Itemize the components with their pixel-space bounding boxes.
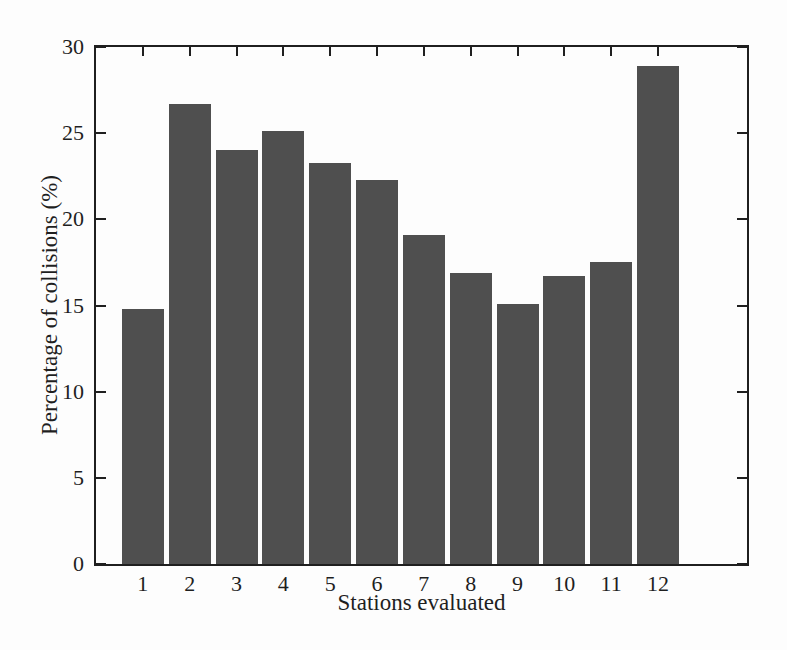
x-tick-label: 6 <box>355 572 399 596</box>
x-tick-top <box>376 47 378 56</box>
x-tick-top <box>423 47 425 56</box>
bar-station-9 <box>497 304 539 564</box>
y-tick-label: 5 <box>24 466 84 490</box>
x-tick-label: 5 <box>308 572 352 596</box>
x-tick-label: 8 <box>449 572 493 596</box>
bar-station-12 <box>637 66 679 564</box>
x-tick-top <box>142 47 144 56</box>
y-tick-left <box>96 563 106 565</box>
bar-station-6 <box>356 180 398 564</box>
y-tick-label: 15 <box>24 294 84 318</box>
x-tick-label: 12 <box>636 572 680 596</box>
y-tick-label: 30 <box>24 35 84 59</box>
y-tick-right <box>737 305 747 307</box>
x-tick-label: 3 <box>215 572 259 596</box>
x-tick-label: 4 <box>261 572 305 596</box>
bar-chart-figure: Percentage of collisions (%) Stations ev… <box>0 0 787 650</box>
y-tick-label: 25 <box>24 121 84 145</box>
y-tick-right <box>737 477 747 479</box>
bar-station-10 <box>543 276 585 564</box>
x-tick-label: 9 <box>496 572 540 596</box>
x-tick-label: 7 <box>402 572 446 596</box>
x-tick-top <box>282 47 284 56</box>
x-tick-top <box>517 47 519 56</box>
y-tick-left <box>96 132 106 134</box>
bar-station-4 <box>262 131 304 564</box>
y-tick-right <box>737 218 747 220</box>
bar-station-11 <box>590 262 632 564</box>
bar-station-3 <box>216 150 258 564</box>
bar-station-7 <box>403 235 445 564</box>
y-tick-left <box>96 391 106 393</box>
x-tick-label: 10 <box>542 572 586 596</box>
x-tick-label: 1 <box>121 572 165 596</box>
bar-station-5 <box>309 163 351 565</box>
y-tick-left <box>96 218 106 220</box>
plot-area <box>94 45 749 566</box>
y-tick-label: 20 <box>24 207 84 231</box>
x-tick-top <box>329 47 331 56</box>
y-tick-right <box>737 563 747 565</box>
bar-station-1 <box>122 309 164 564</box>
x-tick-top <box>470 47 472 56</box>
y-tick-right <box>737 391 747 393</box>
y-tick-left <box>96 46 106 48</box>
y-tick-right <box>737 132 747 134</box>
x-tick-top <box>189 47 191 56</box>
bar-station-2 <box>169 104 211 564</box>
bar-station-8 <box>450 273 492 564</box>
x-tick-top <box>563 47 565 56</box>
x-tick-top <box>236 47 238 56</box>
y-tick-label: 0 <box>24 552 84 576</box>
x-tick-top <box>657 47 659 56</box>
y-tick-left <box>96 477 106 479</box>
x-tick-label: 2 <box>168 572 212 596</box>
y-tick-label: 10 <box>24 380 84 404</box>
x-tick-label: 11 <box>589 572 633 596</box>
x-tick-top <box>610 47 612 56</box>
y-tick-right <box>737 46 747 48</box>
y-tick-left <box>96 305 106 307</box>
